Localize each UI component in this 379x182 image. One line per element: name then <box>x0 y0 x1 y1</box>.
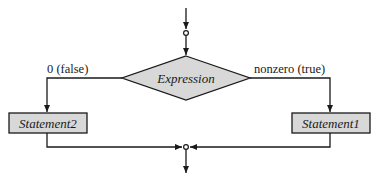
false-branch-label: 0 (false) <box>47 62 88 76</box>
false-branch-edge <box>47 78 122 112</box>
statement1-label: Statement1 <box>302 116 360 131</box>
decision-diamond: Expression <box>122 56 250 100</box>
flowchart: Expression 0 (false) nonzero (true) Stat… <box>0 0 379 182</box>
true-branch-label: nonzero (true) <box>254 62 325 76</box>
true-branch-edge <box>250 78 330 112</box>
decision-label: Expression <box>156 71 214 86</box>
join-connector <box>184 145 189 150</box>
statement2-label: Statement2 <box>19 116 77 131</box>
statement1-to-join-edge <box>190 133 330 147</box>
statement1-box: Statement1 <box>292 113 370 133</box>
entry-connector <box>184 31 189 36</box>
statement2-box: Statement2 <box>9 113 87 133</box>
statement2-to-join-edge <box>47 133 182 147</box>
